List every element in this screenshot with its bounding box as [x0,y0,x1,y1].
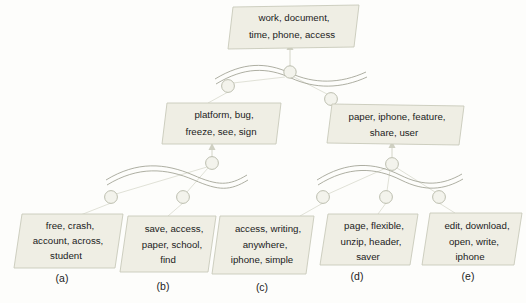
leaf-d-line1: page, flexible, [344,220,404,231]
node-root[interactable]: work, document, time, phone, access [228,5,359,49]
tree-canvas: work, document, time, phone, access plat… [0,0,526,303]
node-left-line1: platform, bug, [194,109,253,120]
port-right-split[interactable] [386,158,399,171]
port-leaf-c[interactable] [317,191,330,204]
edge-port-to-node-left [208,92,228,103]
port-left-split[interactable] [206,157,219,170]
node-root-line2: time, phone, access [249,29,335,40]
port-leaf-b[interactable] [177,191,190,204]
leaf-a-line1: free, crash, [46,220,94,231]
port-leaf-a[interactable] [105,191,118,204]
leaf-b-sublabel: (b) [157,280,170,292]
edge-port-to-leaf-b [168,203,183,216]
wave-line-right-lower [318,170,463,188]
edge-port-to-leaf-e [439,203,455,213]
edge-topwave-left [233,77,285,83]
wave-band-left [106,166,248,188]
leaf-d-sublabel: (d) [351,270,364,282]
leaf-a-line3: student [50,250,82,261]
edge-rightwave-to-d [387,170,390,191]
port-node-left[interactable] [222,80,235,93]
node-level2-left[interactable]: platform, bug, freeze, see, sign [162,103,281,144]
leaf-d-line3: saver [356,251,380,262]
leaf-b-line3: find [160,254,176,265]
wave-line-left-upper [106,166,247,183]
port-leaf-d[interactable] [380,191,393,204]
node-root-line1: work, document, [257,12,329,23]
node-leaf-d[interactable]: page, flexible, unzip, header, saver (d) [320,214,418,282]
port-leaf-e[interactable] [433,191,446,204]
leaf-a-sublabel: (a) [56,272,69,284]
leaf-e-line2: open, write, [449,236,499,247]
node-leaf-c[interactable]: access, writing, anywhere, iphone, simpl… [212,216,314,293]
topic-tree-diagram: work, document, time, phone, access plat… [0,0,526,303]
node-left-line2: freeze, see, sign [185,126,256,137]
leaf-e-line1: edit, download, [444,220,509,231]
node-leaf-b[interactable]: save, access, paper, school, find (b) [120,216,216,292]
leaf-a-line2: account, across, [33,235,104,246]
node-right-line1: paper, iphone, feature, [349,111,446,122]
leaf-c-line1: access, writing, [235,223,301,234]
port-node-right[interactable] [325,93,338,106]
leaf-c-sublabel: (c) [256,281,268,293]
edge-port-to-leaf-c [300,203,323,216]
leaf-e-line3: iphone [455,251,484,262]
node-level2-right[interactable]: paper, iphone, feature, share, user [327,104,464,145]
leaf-b-line2: paper, school, [142,239,202,250]
port-root-split[interactable] [284,66,296,78]
leaf-e-sublabel: (e) [462,270,475,282]
node-leaf-a[interactable]: free, crash, account, across, student (a… [14,214,123,284]
wave-line-left-lower [107,171,248,188]
node-leaf-e[interactable]: edit, download, open, write, iphone (e) [422,213,522,282]
leaf-d-line2: unzip, header, [341,236,402,247]
leaf-c-line3: iphone, simple [231,254,293,265]
edge-port-to-leaf-d [378,203,386,214]
leaf-b-line1: save, access, [145,223,204,234]
leaf-c-line2: anywhere, [243,239,288,250]
node-right-line2: share, user [370,127,419,138]
